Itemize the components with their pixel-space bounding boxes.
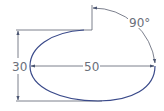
width-dimension-label: 50 bbox=[84, 60, 99, 74]
angle-dimension-label: 90° bbox=[129, 16, 150, 30]
height-dimension-label: 30 bbox=[12, 60, 27, 74]
drawing-canvas: 30 50 90° bbox=[0, 0, 164, 111]
